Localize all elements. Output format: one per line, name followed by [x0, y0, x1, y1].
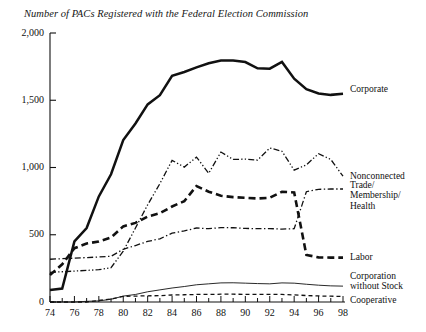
- series-label-0: Corporate: [350, 84, 388, 95]
- y-axis-tick-label: 1,000: [4, 161, 44, 172]
- chart-figure: Number of PACs Registered with the Feder…: [0, 0, 426, 332]
- series-label-4: Corporation without Stock: [350, 271, 403, 292]
- series-label-2: Trade/ Membership/ Health: [350, 180, 401, 212]
- series-line-0: [50, 60, 343, 290]
- chart-series-lines: [50, 60, 343, 302]
- y-axis-tick-label: 1,500: [4, 94, 44, 105]
- y-axis-tick-label: 2,000: [4, 27, 44, 38]
- series-line-3: [50, 186, 343, 275]
- y-axis-tick-label: 0: [4, 296, 44, 307]
- x-axis-tick-label: 98: [328, 307, 358, 318]
- chart-axes: [50, 33, 345, 302]
- y-axis-tick-label: 500: [4, 228, 44, 239]
- series-label-3: Labor: [350, 252, 373, 263]
- series-label-5: Cooperative: [350, 295, 396, 306]
